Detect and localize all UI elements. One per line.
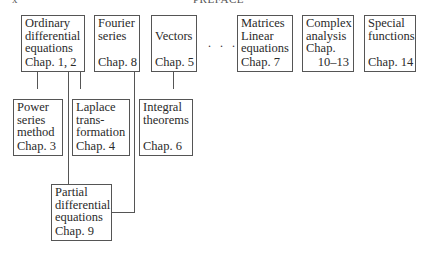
box-special-functions: Special functions Chap. 14 xyxy=(364,15,416,72)
box-text: Complex xyxy=(306,17,350,30)
box-laplace-transformation: Laplace trans- formation Chap. 4 xyxy=(72,99,130,156)
box-text: Fourier xyxy=(98,17,136,30)
box-matrices-linear-equations: Matrices Linear equations Chap. 7 xyxy=(237,15,293,72)
box-text: theorems xyxy=(143,114,189,127)
chapter-label: Chap. 1, 2 xyxy=(25,56,76,69)
ellipsis: . . . xyxy=(208,36,238,51)
box-text: Ordinary xyxy=(25,17,81,30)
connector-fourier-pde-horizontal xyxy=(112,212,135,213)
chapter-label: Chap. 4 xyxy=(76,140,115,153)
box-text: method xyxy=(17,126,59,139)
connector-ode-power xyxy=(37,72,38,89)
chapter-label: Chap. 8 xyxy=(98,56,137,69)
box-fourier-series: Fourier series Chap. 8 xyxy=(94,15,140,72)
box-text: equations xyxy=(25,42,81,55)
box-text: Special xyxy=(368,17,412,30)
box-text: series xyxy=(98,30,136,43)
box-text: Integral xyxy=(143,101,189,114)
box-text: Matrices xyxy=(241,17,289,30)
connector-vectors-integral xyxy=(173,72,174,89)
box-power-series-method: Power series method Chap. 3 xyxy=(13,99,63,156)
box-ordinary-differential-equations: Ordinary differential equations Chap. 1,… xyxy=(21,15,85,72)
box-partial-differential-equations: Partial differential equations Chap. 9 xyxy=(51,184,112,241)
box-integral-theorems: Integral theorems Chap. 6 xyxy=(139,99,193,156)
box-vectors: Vectors Chap. 5 xyxy=(151,15,197,72)
box-complex-analysis: Complex analysis Chap. 10–13 xyxy=(302,15,354,72)
chapter-label: 10–13 xyxy=(318,56,349,69)
connector-ode-pde xyxy=(68,72,69,190)
page-number: x xyxy=(12,0,18,5)
box-text: Power xyxy=(17,101,59,114)
chapter-label: Chap. 7 xyxy=(241,56,280,69)
chapter-label: Chap. 6 xyxy=(143,140,182,153)
chapter-label: Chap. 14 xyxy=(368,56,413,69)
box-text: Laplace xyxy=(76,101,126,114)
chapter-label: Chap. 3 xyxy=(17,140,56,153)
connector-ode-laplace xyxy=(80,72,81,89)
box-text: Vectors xyxy=(155,30,193,43)
box-text: Chap. xyxy=(306,42,350,55)
chapter-label: Chap. 9 xyxy=(55,225,94,238)
box-text: Partial xyxy=(55,186,108,199)
chapter-label: Chap. 5 xyxy=(155,56,194,69)
box-text: formation xyxy=(76,126,126,139)
connector-fourier-pde xyxy=(134,72,135,212)
page-running-title: PREFACE xyxy=(193,0,244,5)
box-text: functions xyxy=(368,30,412,43)
box-text: equations xyxy=(55,211,108,224)
box-text: equations xyxy=(241,42,289,55)
